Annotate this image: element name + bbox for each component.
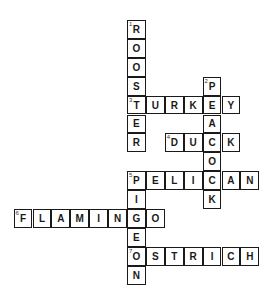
cell-letter: T <box>133 100 139 111</box>
cell-letter: T <box>171 251 177 262</box>
crossword-cell[interactable]: D4 <box>165 133 184 152</box>
cell-letter: O <box>151 213 159 224</box>
crossword-cell[interactable]: L <box>33 209 52 228</box>
crossword-cell[interactable]: O <box>127 39 146 58</box>
crossword-cell[interactable]: M <box>70 209 89 228</box>
cell-letter: R <box>190 251 197 262</box>
cell-letter: E <box>152 175 159 186</box>
clue-number: 7 <box>129 248 132 254</box>
cell-letter: P <box>133 175 140 186</box>
crossword-cell[interactable]: R <box>127 133 146 152</box>
cell-letter: R <box>133 137 140 148</box>
cell-letter: E <box>133 232 140 243</box>
crossword-cell[interactable]: U <box>146 96 165 115</box>
crossword-cell[interactable]: K <box>203 190 222 209</box>
crossword-cell[interactable]: N <box>240 171 259 190</box>
cell-letter: C <box>208 137 215 148</box>
clue-number: 1 <box>129 21 132 27</box>
clue-number: 5 <box>129 172 132 178</box>
crossword-cell[interactable]: C <box>203 133 222 152</box>
cell-letter: L <box>171 175 177 186</box>
crossword-cell[interactable]: R1 <box>127 20 146 39</box>
cell-letter: S <box>133 81 140 92</box>
cell-letter: N <box>246 175 253 186</box>
crossword-cell[interactable]: E <box>127 228 146 247</box>
crossword-cell[interactable]: C <box>222 247 241 266</box>
cell-letter: O <box>133 43 141 54</box>
cell-letter: O <box>133 251 141 262</box>
clue-number: 4 <box>167 134 170 140</box>
cell-letter: E <box>209 100 216 111</box>
cell-letter: L <box>39 213 45 224</box>
cell-letter: U <box>190 137 197 148</box>
crossword-cell[interactable]: O7 <box>127 247 146 266</box>
clue-number: 3 <box>129 97 132 103</box>
cell-letter: I <box>97 213 100 224</box>
cell-letter: A <box>208 118 215 129</box>
crossword-cell[interactable]: F6 <box>14 209 33 228</box>
cell-letter: R <box>171 100 178 111</box>
crossword-cell[interactable]: H <box>240 247 259 266</box>
cell-letter: H <box>246 251 253 262</box>
crossword-cell[interactable]: I <box>203 247 222 266</box>
crossword-cell[interactable]: O <box>127 58 146 77</box>
crossword-cell[interactable]: K <box>184 96 203 115</box>
cell-letter: E <box>133 118 140 129</box>
cell-letter: P <box>209 81 216 92</box>
cell-letter: C <box>208 175 215 186</box>
cell-letter: Y <box>228 100 235 111</box>
crossword-cell[interactable]: T <box>165 247 184 266</box>
cell-letter: K <box>227 137 234 148</box>
crossword-cell[interactable]: U <box>184 133 203 152</box>
crossword-grid: R1OOST3ERP2EACOCKURKYD4UKP5ELIANIGEO7NF6… <box>0 0 274 300</box>
crossword-cell[interactable]: N <box>108 209 127 228</box>
crossword-cell[interactable]: N <box>127 266 146 285</box>
crossword-cell[interactable]: P5 <box>127 171 146 190</box>
cell-letter: O <box>208 156 216 167</box>
crossword-cell[interactable]: Y <box>222 96 241 115</box>
crossword-cell[interactable]: T3 <box>127 96 146 115</box>
crossword-cell[interactable]: R <box>184 247 203 266</box>
clue-number: 2 <box>205 78 208 84</box>
cell-letter: N <box>114 213 121 224</box>
crossword-cell[interactable]: S <box>127 77 146 96</box>
cell-letter: O <box>133 62 141 73</box>
cell-letter: F <box>20 213 26 224</box>
crossword-cell[interactable]: S <box>146 247 165 266</box>
crossword-cell[interactable]: O <box>203 152 222 171</box>
cell-letter: I <box>192 175 195 186</box>
crossword-cell[interactable]: E <box>127 115 146 134</box>
cell-letter: M <box>76 213 84 224</box>
crossword-cell[interactable]: K <box>222 133 241 152</box>
crossword-cell[interactable]: P2 <box>203 77 222 96</box>
crossword-cell[interactable]: O <box>146 209 165 228</box>
crossword-cell[interactable]: I <box>89 209 108 228</box>
cell-letter: D <box>171 137 178 148</box>
crossword-cell[interactable]: L <box>165 171 184 190</box>
cell-letter: N <box>133 270 140 281</box>
crossword-cell[interactable]: E <box>203 96 222 115</box>
crossword-cell[interactable]: A <box>222 171 241 190</box>
crossword-cell[interactable]: C <box>203 171 222 190</box>
cell-letter: K <box>208 194 215 205</box>
clue-number: 6 <box>16 210 19 216</box>
cell-letter: S <box>152 251 159 262</box>
cell-letter: C <box>227 251 234 262</box>
cell-letter: I <box>211 251 214 262</box>
crossword-cell[interactable]: A <box>203 115 222 134</box>
crossword-cell[interactable]: I <box>127 190 146 209</box>
cell-letter: I <box>135 194 138 205</box>
cell-letter: G <box>133 213 141 224</box>
cell-letter: R <box>133 24 140 35</box>
cell-letter: A <box>57 213 64 224</box>
cell-letter: U <box>152 100 159 111</box>
crossword-cell[interactable]: R <box>165 96 184 115</box>
cell-letter: A <box>227 175 234 186</box>
crossword-cell[interactable]: I <box>184 171 203 190</box>
crossword-cell[interactable]: E <box>146 171 165 190</box>
crossword-cell[interactable]: A <box>51 209 70 228</box>
crossword-cell[interactable]: G <box>127 209 146 228</box>
cell-letter: K <box>190 100 197 111</box>
